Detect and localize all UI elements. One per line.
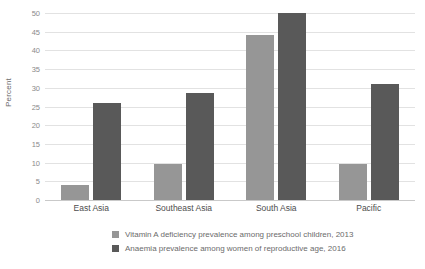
x-axis-labels: East AsiaSoutheast AsiaSouth AsiaPacific [45, 203, 415, 219]
bars-layer [45, 13, 415, 200]
bar [246, 35, 274, 200]
legend-swatch-icon [112, 245, 119, 252]
bar-group [323, 13, 416, 200]
legend-label: Anaemia prevalence among women of reprod… [125, 244, 346, 253]
legend-label: Vitamin A deficiency prevalence among pr… [125, 230, 353, 239]
bar [61, 185, 89, 200]
legend-item[interactable]: Anaemia prevalence among women of reprod… [112, 242, 353, 255]
bar [339, 164, 367, 200]
legend-item[interactable]: Vitamin A deficiency prevalence among pr… [112, 228, 353, 241]
x-axis-tick-label: Southeast Asia [155, 203, 212, 213]
y-axis-tick-label: 50 [32, 9, 40, 18]
bar-group [230, 13, 323, 200]
y-axis-tick-label: 30 [32, 83, 40, 92]
y-axis-tick-label: 15 [32, 139, 40, 148]
bar [278, 13, 306, 200]
y-axis-tick-label: 5 [36, 177, 40, 186]
bar-group [45, 13, 138, 200]
plot-area: 05101520253035404550 [45, 13, 415, 200]
y-axis-tick-label: 10 [32, 158, 40, 167]
gridline: 0 [45, 200, 415, 201]
bar [186, 93, 214, 200]
bar-group [138, 13, 231, 200]
y-axis-tick-label: 40 [32, 46, 40, 55]
legend: Vitamin A deficiency prevalence among pr… [112, 228, 353, 256]
y-axis-tick-label: 35 [32, 65, 40, 74]
y-axis-tick-label: 25 [32, 102, 40, 111]
bar-chart: Percent 05101520253035404550 East AsiaSo… [0, 0, 425, 269]
y-axis-tick-label: 20 [32, 121, 40, 130]
bar [154, 164, 182, 200]
y-axis-tick-label: 0 [36, 196, 40, 205]
bar [93, 103, 121, 200]
y-axis-title: Percent [4, 63, 13, 123]
bar [371, 84, 399, 200]
x-axis-tick-label: East Asia [74, 203, 109, 213]
x-axis-tick-label: South Asia [256, 203, 297, 213]
legend-swatch-icon [112, 231, 119, 238]
y-axis-tick-label: 45 [32, 27, 40, 36]
x-axis-tick-label: Pacific [356, 203, 381, 213]
